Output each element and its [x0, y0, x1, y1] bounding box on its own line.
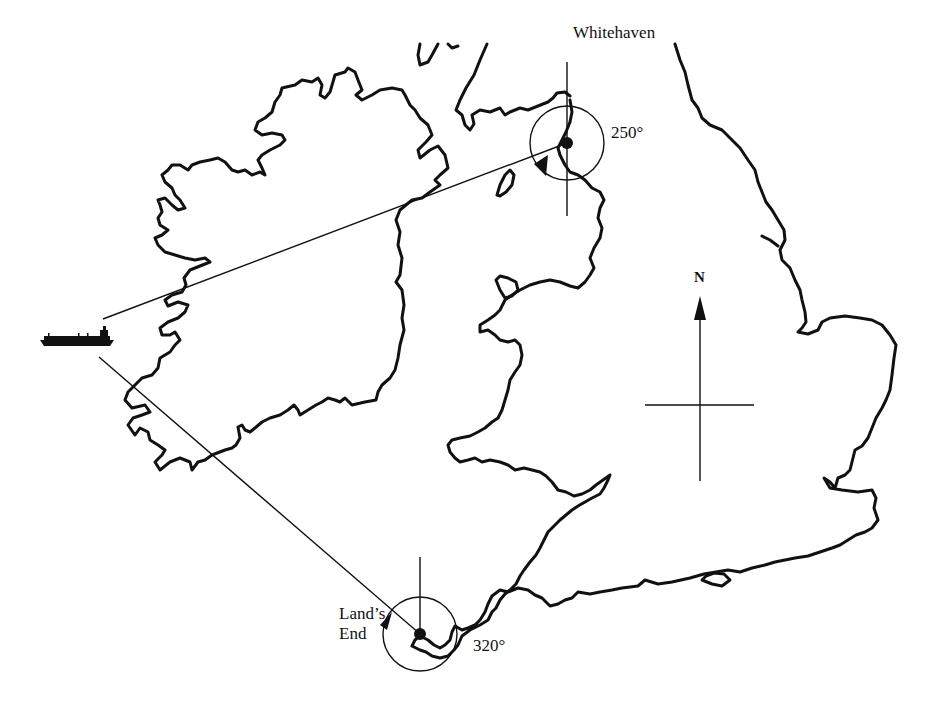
lands-end-label-line2: End — [339, 624, 366, 643]
whitehaven-marker — [561, 137, 573, 149]
lands-end-bearing-label: 320° — [473, 636, 505, 655]
lands-end-marker — [414, 628, 426, 640]
ireland-coastline — [125, 68, 448, 470]
ship-icon — [40, 326, 114, 346]
north-arrow-icon — [694, 296, 706, 320]
humber-estuary — [762, 236, 778, 246]
bearing-line-whitehaven — [103, 143, 567, 319]
whitehaven-bearing-arrow — [534, 155, 548, 176]
bearing-map — [0, 0, 926, 706]
great-britain-coastline — [412, 44, 896, 658]
isle-of-man — [497, 170, 514, 196]
whitehaven-bearing-label: 250° — [611, 123, 643, 142]
north-label: N — [694, 268, 705, 287]
lands-end-label-line1: Land’s — [339, 604, 385, 623]
isle-of-wight — [702, 573, 730, 586]
scotland-coastline-fragment — [448, 44, 458, 48]
anglesey — [496, 276, 518, 298]
bearing-line-lands-end — [99, 357, 420, 634]
whitehaven-label: Whitehaven — [573, 23, 655, 42]
scotland-southwest-coast — [456, 44, 570, 130]
scotland-coastline-fragment — [418, 44, 438, 65]
